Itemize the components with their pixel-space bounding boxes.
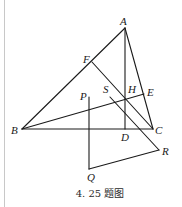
label-h: H (127, 83, 137, 95)
label-a: A (119, 15, 127, 27)
geometry-figure: A B C D E F H S P Q R (0, 0, 182, 207)
segment-rq (89, 150, 159, 169)
label-q: Q (87, 171, 95, 183)
label-e: E (146, 86, 154, 98)
label-d: D (120, 131, 129, 143)
label-f: F (82, 53, 90, 65)
label-c: C (155, 124, 163, 136)
label-p: P (79, 90, 87, 102)
label-s: S (103, 83, 109, 95)
figure-caption: 4. 25 题图 (0, 185, 182, 200)
label-b: B (11, 124, 18, 136)
label-r: R (161, 145, 169, 157)
